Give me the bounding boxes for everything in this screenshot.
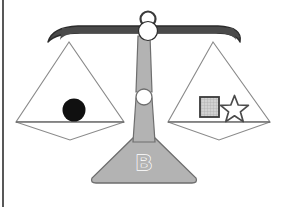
left-pan-object-circle <box>63 99 86 122</box>
beam <box>48 12 240 43</box>
right-pan-object-square <box>200 97 219 117</box>
left-pan-dish <box>16 122 124 140</box>
scale-illustration: B <box>0 0 287 207</box>
left-pan <box>16 42 124 140</box>
pivot-circle <box>139 22 158 41</box>
base-label: B <box>136 150 152 175</box>
column-upper <box>136 36 152 92</box>
column-joint <box>136 89 152 105</box>
right-pan-dish <box>168 122 270 140</box>
column <box>133 36 155 142</box>
right-pan <box>168 42 270 140</box>
balance-scale-diagram: B <box>0 0 287 207</box>
